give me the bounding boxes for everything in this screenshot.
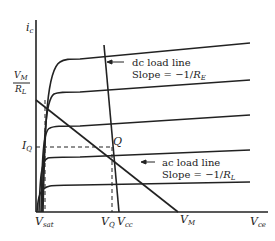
arrow-dc-icon	[107, 60, 112, 64]
ic-curve-2	[42, 80, 250, 212]
vm-label: VM	[180, 214, 195, 227]
q-point-label: Q	[113, 136, 122, 147]
vq-label: VQ	[101, 216, 115, 229]
dc-load-line-annotation: dc load line Slope = −1/RE	[132, 57, 206, 84]
diagram-canvas	[0, 0, 275, 241]
vm-over-rl-numerator: VM	[14, 71, 28, 82]
dc-annotation-slope: Slope = −1/RE	[132, 69, 206, 84]
vm-over-rl-denominator: RL	[15, 85, 26, 96]
y-axis-label: ic	[26, 22, 33, 35]
x-axis-label: Vce	[250, 216, 266, 229]
ac-load-line-annotation: ac load line Slope = −1/RL	[162, 157, 235, 184]
dc-load-line	[104, 45, 119, 212]
ac-annotation-slope: Slope = −1/RL	[162, 169, 235, 184]
ac-annotation-title: ac load line	[162, 157, 235, 169]
vcc-label: Vcc	[117, 216, 133, 229]
ic-curve-5	[37, 182, 250, 212]
vsat-label: Vsat	[35, 216, 54, 229]
iq-label: IQ	[22, 140, 32, 153]
arrow-ac-icon	[141, 160, 146, 164]
ac-load-line	[36, 100, 178, 212]
dc-annotation-title: dc load line	[132, 57, 206, 69]
